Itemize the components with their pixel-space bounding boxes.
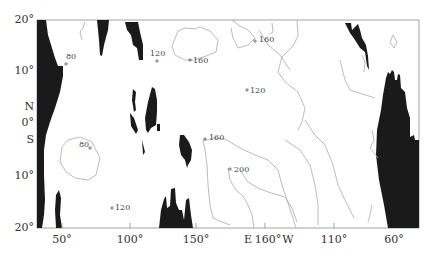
contour-east-a bbox=[305, 120, 354, 218]
land-india bbox=[97, 20, 109, 56]
y-label-10s: 10° bbox=[0, 169, 34, 182]
contour-east-b bbox=[285, 140, 318, 225]
x-ticks bbox=[62, 223, 334, 228]
contour-160-b2 bbox=[270, 23, 273, 34]
y-label-n: N bbox=[0, 100, 34, 113]
y-label-s: S bbox=[0, 133, 34, 146]
contour-200-b bbox=[240, 170, 297, 222]
contour-map: 80 120 160 160 120 80 160 200 120 bbox=[0, 0, 437, 257]
x-label-60w: 60° bbox=[384, 233, 404, 246]
contour-east-d bbox=[362, 55, 365, 72]
y-label-20s: 20° bbox=[0, 221, 34, 234]
land-central-america bbox=[345, 23, 369, 70]
y-label-10n: 10° bbox=[0, 64, 34, 77]
contour-label: 160 bbox=[209, 133, 224, 142]
contour-label: 120 bbox=[250, 86, 265, 95]
x-label-110w: 110° bbox=[321, 233, 348, 246]
land-masses bbox=[37, 20, 419, 228]
contour-label: 120 bbox=[150, 49, 165, 58]
contour-east-diamond bbox=[390, 35, 397, 48]
x-label-100e: 100° bbox=[117, 233, 144, 246]
land-indochina bbox=[125, 22, 143, 60]
contour-label: 120 bbox=[115, 203, 130, 212]
land-java-bit bbox=[157, 124, 160, 131]
y-label-0: 0° bbox=[0, 116, 34, 129]
contour-160-b bbox=[231, 20, 255, 48]
contour-label: 160 bbox=[259, 35, 274, 44]
land-sumatra bbox=[130, 113, 138, 134]
contour-east-c bbox=[340, 60, 375, 98]
x-label-160: 160° bbox=[255, 233, 282, 246]
land-celebes bbox=[142, 140, 145, 155]
land-australia bbox=[159, 188, 193, 228]
contour-label: 80 bbox=[66, 52, 76, 61]
land-madagascar bbox=[55, 190, 62, 228]
land-borneo bbox=[145, 87, 157, 133]
y-label-20n: 20° bbox=[0, 13, 34, 26]
contour-label: 200 bbox=[234, 165, 249, 174]
x-label-50e: 50° bbox=[52, 233, 72, 246]
contour-labels: 80 120 160 160 120 80 160 200 120 bbox=[66, 35, 274, 212]
land-malaysia bbox=[132, 89, 136, 112]
contour-120 bbox=[278, 20, 305, 130]
x-label-w: W bbox=[282, 233, 293, 246]
contour-markers bbox=[64, 39, 257, 210]
land-new-guinea bbox=[179, 135, 192, 168]
contour-label: 160 bbox=[193, 56, 208, 65]
contour-lines bbox=[60, 20, 397, 228]
x-label-150e: 150° bbox=[183, 233, 210, 246]
contour-east-f bbox=[368, 205, 372, 222]
map-frame bbox=[37, 20, 419, 228]
x-label-e: E bbox=[244, 233, 252, 246]
land-south-america bbox=[376, 70, 419, 228]
contour-label: 80 bbox=[79, 140, 89, 149]
contour-200 bbox=[228, 168, 254, 228]
contour-160-c2 bbox=[203, 140, 230, 225]
contour-80-a bbox=[80, 22, 85, 40]
